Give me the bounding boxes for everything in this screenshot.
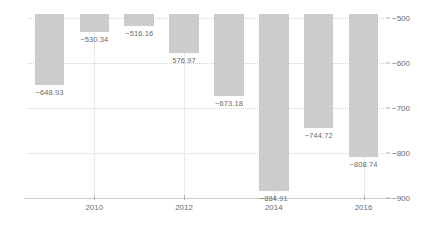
y-axis-tick-label: −900 — [392, 194, 410, 203]
x-axis-tick-mark — [184, 195, 185, 200]
bar-value-label: −884.91 — [260, 194, 288, 203]
bar — [349, 14, 379, 157]
bar — [124, 14, 154, 26]
bar-value-label: −648.93 — [35, 88, 63, 97]
bar — [35, 14, 65, 85]
bar-value-label: −516.16 — [125, 29, 153, 38]
x-axis-tick-label: 2012 — [175, 203, 193, 212]
y-axis-tick-label: −800 — [392, 149, 410, 158]
x-axis-tick-mark — [94, 195, 95, 200]
bar-value-label: −530.34 — [80, 35, 108, 44]
bar — [80, 14, 110, 32]
bar — [259, 14, 289, 191]
bar — [169, 14, 199, 53]
bar-value-label: −808.74 — [350, 160, 378, 169]
x-axis-tick-label: 2014 — [265, 203, 283, 212]
gridline-horizontal — [27, 153, 386, 154]
y-axis-tick-label: −500 — [392, 14, 410, 23]
y-axis-tick-label: −600 — [392, 59, 410, 68]
bar — [304, 14, 334, 128]
bar-value-label: 576.97 — [172, 56, 196, 65]
x-axis-tick-label: 2016 — [355, 203, 373, 212]
y-axis-tick-mark — [386, 108, 390, 109]
x-axis-tick-mark — [364, 195, 365, 200]
bar-value-label: −744.72 — [305, 131, 333, 140]
y-axis-tick-label: −700 — [392, 104, 410, 113]
x-axis-line — [24, 198, 392, 199]
bar-value-label: −673.18 — [215, 99, 243, 108]
y-axis-tick-mark — [386, 18, 390, 19]
y-axis-tick-mark — [386, 63, 390, 64]
bar-chart: −500−600−700−800−900 2010201220142016 −6… — [0, 0, 430, 229]
bar — [214, 14, 244, 96]
x-axis-tick-label: 2010 — [85, 203, 103, 212]
y-axis-tick-mark — [386, 153, 390, 154]
y-axis-tick-mark — [386, 198, 390, 199]
